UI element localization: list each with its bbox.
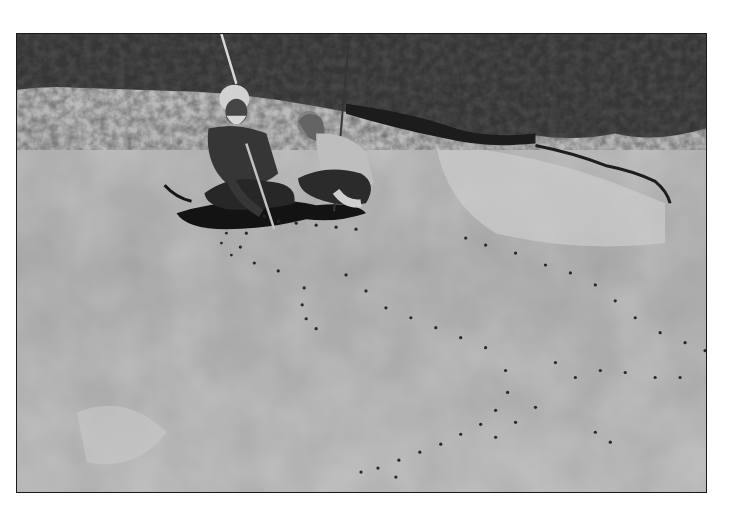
photograph-frame bbox=[16, 33, 707, 493]
photograph bbox=[17, 34, 706, 492]
